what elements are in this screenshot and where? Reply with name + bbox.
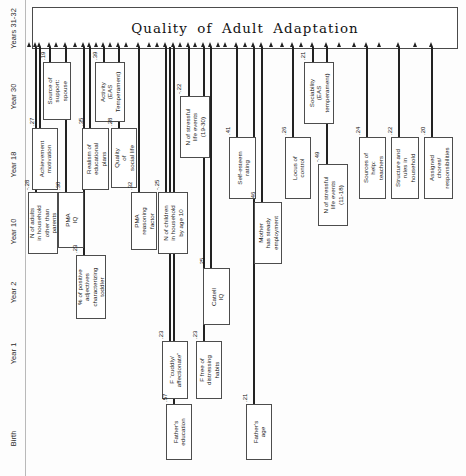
path-coefficient: -.28: [24, 180, 30, 190]
path-arrowhead: [396, 42, 400, 47]
predictor-node-n24: Assigned chores/ responsibilities: [424, 137, 453, 199]
path-arrowhead: [101, 42, 105, 47]
path-coefficient: .23: [192, 331, 198, 339]
path-line: [431, 47, 432, 137]
path-arrowhead: [54, 42, 58, 47]
path-line: [366, 47, 367, 137]
predictor-node-n22: Sources of help: teachers: [359, 137, 386, 199]
path-arrowhead: [299, 42, 303, 47]
path-line: [138, 47, 139, 192]
path-coefficient: .25: [199, 258, 205, 266]
path-arrowhead: [27, 42, 31, 47]
predictor-node-n20: Sociability (EAS temperament): [304, 62, 334, 124]
path-arrowhead: [337, 42, 341, 47]
path-arrowhead: [259, 42, 263, 47]
predictor-node-label: N of stressful life events (19-30): [184, 96, 206, 158]
axis-label-1: Year 30: [9, 58, 18, 136]
predictor-node-n9: PMA reasoning factor: [131, 192, 157, 250]
path-arrowhead: [216, 42, 220, 47]
path-arrowhead: [208, 42, 212, 47]
predictor-node-n4: PMA IQ: [58, 192, 84, 248]
predictor-node-label: Mother has steady employment: [257, 202, 279, 264]
path-coefficient: .22: [387, 127, 393, 135]
path-arrowhead: [429, 42, 433, 47]
predictor-node-n18: Mother has steady employment: [254, 202, 282, 264]
predictor-node-label: Father's age: [252, 404, 267, 460]
path-arrowhead: [37, 42, 41, 47]
path-arrowhead: [155, 42, 159, 47]
axis-rule: [25, 0, 26, 476]
predictor-node-n11: Father's education: [166, 404, 192, 460]
path-coefficient: .23: [158, 331, 164, 339]
path-arrowhead: [87, 42, 91, 47]
path-arrowhead: [324, 42, 328, 47]
path-line: [165, 47, 166, 192]
predictor-node-n14: F free of distressing habits: [196, 341, 222, 399]
predictor-node-n1: N of adults in household other than pare…: [28, 192, 58, 254]
path-line: [103, 47, 104, 62]
predictor-node-n5: % of positive adjectives characterizing …: [76, 255, 106, 319]
predictor-node-label: Self-esteem rating: [235, 137, 250, 199]
path-arrowhead: [94, 42, 98, 47]
path-arrowhead: [310, 42, 314, 47]
path-arrowhead: [290, 42, 294, 47]
path-arrowhead: [193, 42, 197, 47]
path-coefficient: .41: [225, 127, 231, 135]
path-line: [236, 47, 237, 137]
path-coefficient: .35: [78, 118, 84, 126]
path-line: [292, 47, 293, 137]
path-arrowhead: [73, 42, 77, 47]
predictor-node-label: Quality of social life: [113, 128, 135, 188]
path-arrowhead: [377, 42, 381, 47]
path-arrowhead: [124, 42, 128, 47]
path-arrowhead: [364, 42, 368, 47]
predictor-node-label: Locus of control: [291, 137, 306, 199]
path-arrowhead: [171, 42, 175, 47]
path-coefficient: .30: [55, 182, 61, 190]
path-coefficient: .26: [281, 127, 287, 135]
path-arrowhead: [81, 42, 85, 47]
path-diagram-canvas: Quality of Adult Adaptation Years 31-32Y…: [0, 0, 466, 476]
path-arrowhead: [136, 42, 140, 47]
predictor-node-label: PMA IQ: [64, 192, 79, 248]
path-line: [398, 47, 399, 137]
path-arrowhead: [47, 42, 51, 47]
predictor-node-label: Structure and rules in household: [394, 137, 416, 199]
path-arrowhead: [116, 42, 120, 47]
path-line: [312, 47, 313, 62]
path-coefficient: .39: [92, 52, 98, 60]
predictor-node-label: Achievement motivation: [38, 128, 53, 190]
path-line: [210, 47, 211, 268]
predictor-node-n12: N of children in household by age 10: [158, 192, 188, 254]
predictor-node-label: Realism of educational plans: [85, 128, 107, 190]
path-line: [261, 47, 262, 202]
path-coefficient: .24: [355, 127, 361, 135]
path-arrowhead: [163, 42, 167, 47]
predictor-node-n21: N of stressful life events (11-18): [318, 164, 348, 226]
diagram-title: Quality of Adult Adaptation: [131, 21, 359, 36]
path-coefficient: .27: [29, 118, 35, 126]
path-arrowhead: [251, 42, 255, 47]
predictor-node-n13: N of stressful life events (19-30): [180, 96, 210, 158]
predictor-node-label: N of stressful life events (11-18): [322, 164, 344, 226]
predictor-node-n23: Structure and rules in household: [391, 137, 419, 199]
path-coefficient: -.49: [314, 152, 320, 162]
path-arrowhead: [147, 42, 151, 47]
path-arrowhead: [63, 42, 67, 47]
path-coefficient: .32: [127, 182, 133, 190]
axis-label-5: Year 1: [9, 315, 18, 393]
predictor-node-label: N of adults in household other than pare…: [28, 192, 57, 254]
predictor-node-label: F free of distressing habits: [198, 341, 220, 399]
predictor-node-label: Cattell IQ: [209, 268, 224, 325]
predictor-node-n7: Activity (EAS Temperament): [95, 62, 125, 122]
path-coefficient: .19: [40, 52, 46, 60]
predictor-node-n15: Cattell IQ: [203, 268, 230, 325]
path-coefficient: .21: [242, 394, 248, 402]
predictor-node-label: Activity (EAS Temperament): [99, 62, 121, 122]
axis-label-6: Birth: [9, 400, 18, 476]
predictor-node-n16: Father's age: [246, 404, 272, 460]
predictor-node-n6: Realism of educational plans: [82, 128, 109, 190]
predictor-node-label: Assigned chores/ responsibilities: [428, 137, 450, 199]
predictor-node-label: Source of support: spouse: [46, 62, 68, 120]
path-coefficient: .23: [72, 245, 78, 253]
